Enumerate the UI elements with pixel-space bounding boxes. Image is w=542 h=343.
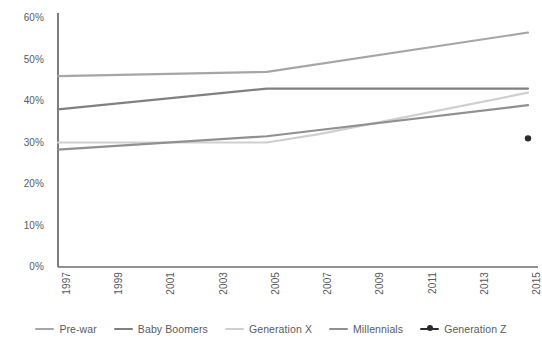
legend-item-generation-z[interactable]: Generation Z xyxy=(420,324,506,335)
x-tick-label: 2001 xyxy=(166,272,176,295)
series-generation-x xyxy=(58,93,528,143)
chart-legend: Pre-warBaby BoomersGeneration XMillennia… xyxy=(0,318,542,340)
line-chart: 0%10%20%30%40%50%60% 1997199920012003200… xyxy=(0,0,542,343)
plot-area: 0%10%20%30%40%50%60% xyxy=(0,0,542,300)
series-generation-z xyxy=(525,135,531,141)
legend-swatch-icon xyxy=(114,325,133,334)
legend-item-pre-war[interactable]: Pre-war xyxy=(35,324,96,335)
y-tick-label: 10% xyxy=(24,221,44,231)
series-pre-war xyxy=(58,33,528,77)
y-axis-tick-labels: 0%10%20%30%40%50%60% xyxy=(0,0,52,300)
axes xyxy=(58,13,538,267)
plot-svg xyxy=(0,0,542,300)
legend-swatch-icon xyxy=(225,325,244,334)
series-line xyxy=(58,93,528,143)
legend-item-baby-boomers[interactable]: Baby Boomers xyxy=(114,324,208,335)
legend-item-label: Generation Z xyxy=(444,324,506,335)
legend-item-generation-x[interactable]: Generation X xyxy=(225,324,312,335)
legend-swatch-icon xyxy=(329,325,348,334)
series-lines xyxy=(58,33,531,150)
x-tick-label: 1999 xyxy=(114,272,124,295)
data-point-marker xyxy=(525,135,531,141)
y-tick-label: 50% xyxy=(24,55,44,65)
x-tick-label: 1997 xyxy=(62,272,72,295)
legend-swatch-icon xyxy=(35,325,54,334)
legend-item-millennials[interactable]: Millennials xyxy=(329,324,403,335)
legend-swatch-icon xyxy=(420,325,439,334)
x-tick-label: 2015 xyxy=(532,272,542,295)
series-line xyxy=(58,33,528,77)
x-tick-label: 2009 xyxy=(375,272,385,295)
x-axis-tick-labels: 1997199920012003200520072009201120132015 xyxy=(0,270,542,316)
x-tick-label: 2005 xyxy=(271,272,281,295)
legend-item-label: Millennials xyxy=(353,324,403,335)
x-tick-label: 2011 xyxy=(428,272,438,294)
y-tick-label: 20% xyxy=(24,179,44,189)
x-tick-label: 2013 xyxy=(480,272,490,295)
legend-item-label: Pre-war xyxy=(59,324,96,335)
y-tick-label: 30% xyxy=(24,138,44,148)
x-tick-label: 2003 xyxy=(219,272,229,295)
y-tick-label: 40% xyxy=(24,96,44,106)
x-tick-label: 2007 xyxy=(323,272,333,295)
legend-item-label: Baby Boomers xyxy=(138,324,208,335)
y-tick-label: 60% xyxy=(24,13,44,23)
legend-item-label: Generation X xyxy=(249,324,312,335)
